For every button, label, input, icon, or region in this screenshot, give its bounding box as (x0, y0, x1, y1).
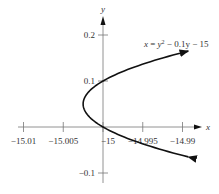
y-tick-label: 0.1 (84, 76, 95, 86)
y-axis: y (100, 4, 106, 183)
x-axis-arrow-icon (194, 125, 202, 130)
x-tick-label: −15 (101, 136, 116, 146)
y-axis-arrow-icon (101, 16, 106, 25)
parabola-chart: x y −15.01−15.005−15−14.995−14.99 −0.10.… (0, 0, 219, 194)
y-tick-label: 0.2 (84, 30, 95, 40)
x-axis: x (18, 122, 210, 132)
y-tick-label: −0.1 (79, 168, 95, 178)
x-tick-label: −15.01 (11, 136, 36, 146)
x-tick-label: −14.99 (170, 136, 196, 146)
y-axis-label: y (100, 4, 105, 14)
x-tick-label: −15.005 (48, 136, 78, 146)
equation-label: x = y2 − 0.1y − 15 (143, 39, 209, 49)
x-axis-label: x (205, 122, 210, 132)
